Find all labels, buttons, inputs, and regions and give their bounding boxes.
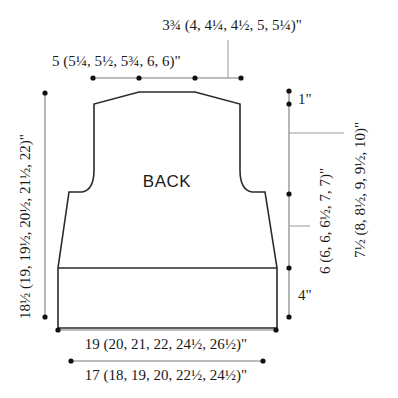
total-length-label: 18½ (19, 19½, 20½, 21½, 22)" xyxy=(17,134,34,319)
neck-width-label: 5 (5¼, 5½, 5¾, 6, 6)" xyxy=(52,53,181,70)
armhole-depth-label: 7½ (8, 8½, 9, 9½, 10)" xyxy=(352,122,369,258)
shoulder-width-label: 3¾ (4, 4¼, 4½, 5, 5¼)" xyxy=(162,17,302,34)
piece-label: BACK xyxy=(143,172,191,191)
rib-width-label: 17 (18, 19, 20, 22½, 24½)" xyxy=(85,367,247,384)
ribbing-height-label: 4" xyxy=(298,287,312,303)
back-piece-outline xyxy=(58,92,277,328)
shoulder-slope-label: 1" xyxy=(298,91,312,107)
dimension-dot xyxy=(42,90,47,95)
dimension-dot xyxy=(90,75,95,80)
right-dimension-line xyxy=(286,88,344,319)
lower-width-label: 19 (20, 21, 22, 24½, 26½)" xyxy=(85,336,247,353)
dimension-dot xyxy=(273,327,278,332)
left-dimension-line xyxy=(42,90,47,319)
dimension-dot xyxy=(192,75,197,80)
back-schematic: BACK 3¾ (4, 4¼, 4½, 5, 5¼)" 5 (5¼, 5½, 5… xyxy=(0,0,398,398)
dimension-dot xyxy=(42,314,47,319)
dimension-dot xyxy=(286,265,291,270)
rib-width-line xyxy=(68,358,265,363)
body-outline xyxy=(58,92,277,328)
dimension-dot xyxy=(68,358,73,363)
dimension-dot xyxy=(286,314,291,319)
dimension-dot xyxy=(238,75,243,80)
dimension-dot xyxy=(260,358,265,363)
dimension-dot xyxy=(136,75,141,80)
side-length-label: 6 (6, 6, 6½, 7, 7)" xyxy=(317,168,334,274)
dimension-dot xyxy=(286,191,291,196)
dimension-dot xyxy=(55,327,60,332)
dimension-dot xyxy=(286,101,291,106)
dimension-dot xyxy=(286,88,291,93)
